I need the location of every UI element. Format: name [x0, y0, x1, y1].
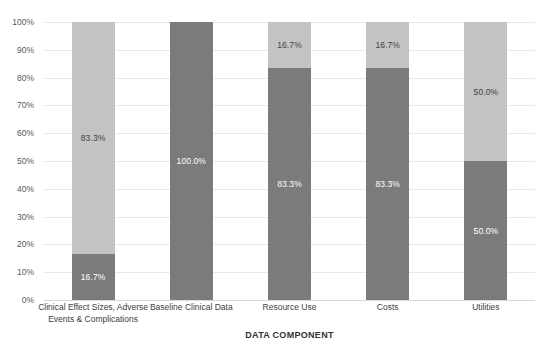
- bar-data-label: 83.3%: [277, 179, 302, 189]
- bar-data-label: 16.7%: [375, 40, 400, 50]
- bar-group[interactable]: 16.7%83.3%: [72, 22, 115, 300]
- bar-group[interactable]: 50.0%50.0%: [464, 22, 507, 300]
- bar-group[interactable]: 83.3%16.7%: [366, 22, 409, 300]
- bar-data-label: 83.3%: [81, 133, 106, 143]
- y-axis-tick-label: 90%: [0, 46, 34, 55]
- bar-data-label: 16.7%: [81, 272, 106, 282]
- bar-data-label: 83.3%: [375, 179, 400, 189]
- y-axis-tick-label: 30%: [0, 212, 34, 221]
- bar-segment[interactable]: 50.0%: [464, 161, 507, 300]
- bar-segment[interactable]: 83.3%: [72, 22, 115, 254]
- plot-area: 16.7%83.3%100.0%83.3%16.7%83.3%16.7%50.0…: [44, 22, 535, 300]
- bar-segment[interactable]: 100.0%: [170, 22, 213, 300]
- y-axis-tick-label: 0%: [0, 296, 34, 305]
- y-axis-tick-label: 50%: [0, 157, 34, 166]
- bar-group[interactable]: 83.3%16.7%: [268, 22, 311, 300]
- stacked-bar-chart: 100%90%80%70%60%50%40%30%20%10%0% 16.7%8…: [0, 0, 543, 351]
- bar-data-label: 100.0%: [177, 156, 206, 166]
- y-axis-tick-label: 60%: [0, 129, 34, 138]
- x-axis-title: DATA COMPONENT: [44, 330, 535, 340]
- x-axis-category-label: Utilities: [424, 302, 543, 314]
- y-axis-tick-label: 10%: [0, 268, 34, 277]
- bar-data-label: 50.0%: [474, 87, 499, 97]
- y-axis-tick-label: 80%: [0, 73, 34, 82]
- bar-segment[interactable]: 50.0%: [464, 22, 507, 161]
- bar-segment[interactable]: 16.7%: [268, 22, 311, 68]
- y-axis-tick-label: 20%: [0, 240, 34, 249]
- bar-segment[interactable]: 83.3%: [268, 68, 311, 300]
- y-axis-tick-label: 70%: [0, 101, 34, 110]
- bar-data-label: 16.7%: [277, 40, 302, 50]
- bar-group[interactable]: 100.0%: [170, 22, 213, 300]
- y-axis-tick-label: 40%: [0, 185, 34, 194]
- bar-segment[interactable]: 16.7%: [72, 254, 115, 300]
- y-axis-tick-label: 100%: [0, 18, 34, 27]
- bar-segment[interactable]: 16.7%: [366, 22, 409, 68]
- gridline: [44, 300, 535, 301]
- y-axis-labels: 100%90%80%70%60%50%40%30%20%10%0%: [0, 22, 38, 300]
- category-label-line: Events & Complications: [31, 314, 155, 326]
- bar-data-label: 50.0%: [474, 226, 499, 236]
- bar-segment[interactable]: 83.3%: [366, 68, 409, 300]
- category-label-line: Utilities: [424, 302, 543, 314]
